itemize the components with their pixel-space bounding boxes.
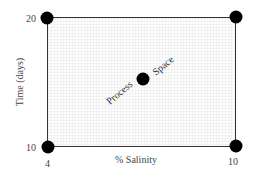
corner-point-bottom-left bbox=[42, 141, 55, 154]
corner-point-bottom-right bbox=[230, 140, 243, 153]
x-axis-label: % Salinity bbox=[115, 154, 157, 165]
corner-point-top-right bbox=[230, 11, 243, 24]
y-tick-max: 20 bbox=[26, 13, 36, 24]
x-tick-min: 4 bbox=[45, 158, 50, 169]
y-axis-label: Time (days) bbox=[14, 58, 25, 106]
x-tick-max: 10 bbox=[228, 156, 238, 167]
corner-point-top-left bbox=[41, 12, 54, 25]
center-point bbox=[137, 73, 150, 86]
y-tick-min: 10 bbox=[26, 142, 36, 153]
